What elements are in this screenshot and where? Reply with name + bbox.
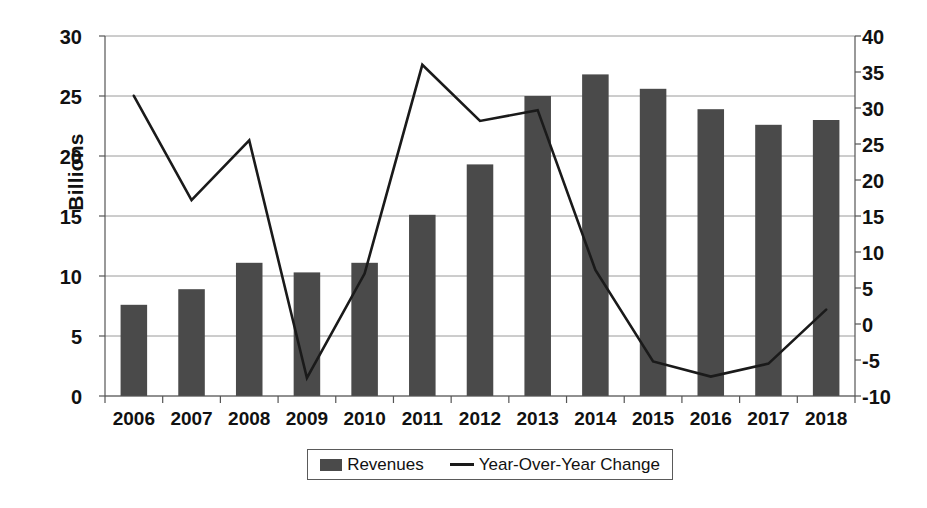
axis-lines xyxy=(99,36,861,396)
bar-2016 xyxy=(698,109,725,396)
y2-axis-tick-35: 35 xyxy=(862,62,922,85)
y-axis-tick-0: 0 xyxy=(22,386,82,409)
bar-2009 xyxy=(294,272,321,396)
bar-2010 xyxy=(351,263,378,396)
yoy-change-line xyxy=(134,65,826,378)
bar-2012 xyxy=(467,164,494,396)
bar-2007 xyxy=(178,289,205,396)
y2-axis-tick-15: 15 xyxy=(862,206,922,229)
line-series xyxy=(134,65,826,378)
y2-axis-tick-5: 5 xyxy=(862,278,922,301)
legend-label-revenues: Revenues xyxy=(347,455,424,475)
bar-swatch-icon xyxy=(320,459,342,471)
bar-series xyxy=(121,74,840,396)
bar-2017 xyxy=(755,125,782,396)
y2-axis-tick-neg10: -10 xyxy=(862,386,922,409)
bar-2011 xyxy=(409,215,436,396)
line-swatch-icon xyxy=(450,463,474,466)
y-axis-tick-25: 25 xyxy=(22,86,82,109)
bar-2008 xyxy=(236,263,263,396)
y2-axis-tick-20: 20 xyxy=(862,170,922,193)
y2-axis-tick-30: 30 xyxy=(862,98,922,121)
y-axis-tick-30: 30 xyxy=(22,26,82,49)
bar-2014 xyxy=(582,74,609,396)
legend-item-revenues[interactable]: Revenues xyxy=(320,455,424,475)
x-axis-ticks xyxy=(105,396,855,403)
chart-legend: Revenues Year-Over-Year Change xyxy=(307,449,673,480)
bar-2006 xyxy=(121,305,148,396)
y-axis-tick-15: 15 xyxy=(22,206,82,229)
y-axis-tick-5: 5 xyxy=(22,326,82,349)
y2-axis-tick-10: 10 xyxy=(862,242,922,265)
y-axis-tick-10: 10 xyxy=(22,266,82,289)
y2-axis-tick-25: 25 xyxy=(862,134,922,157)
chart-container: Billions 30 25 20 15 10 5 0 40 35 30 25 … xyxy=(0,0,927,508)
plot-area xyxy=(0,0,927,508)
y2-axis-tick-0: 0 xyxy=(862,314,922,337)
y-axis-tick-20: 20 xyxy=(22,146,82,169)
y2-axis-tick-40: 40 xyxy=(862,26,922,49)
bar-2013 xyxy=(524,96,551,396)
bar-2015 xyxy=(640,89,667,396)
legend-label-yoy-change: Year-Over-Year Change xyxy=(479,455,660,475)
bar-2018 xyxy=(813,120,840,396)
legend-item-yoy-change[interactable]: Year-Over-Year Change xyxy=(450,455,660,475)
x-axis-label-2018: 2018 xyxy=(791,408,861,430)
y2-axis-tick-neg5: -5 xyxy=(862,350,922,373)
gridlines xyxy=(105,36,855,396)
